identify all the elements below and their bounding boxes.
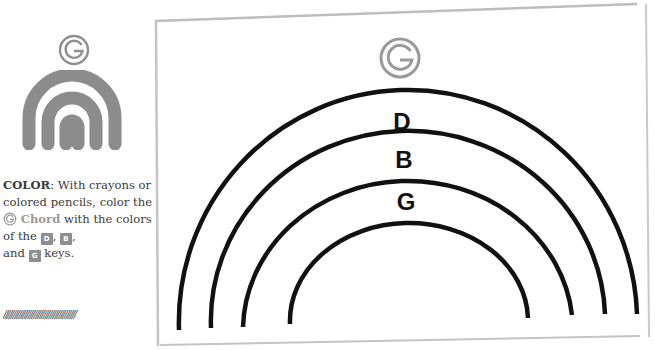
instructions-text: keys. (41, 246, 75, 260)
key-badge-d: D (41, 233, 53, 245)
hatch-divider: ////////////////////////////////////// (3, 308, 160, 320)
band-label-d: D (393, 108, 410, 136)
key-badge-g: G (29, 250, 41, 262)
separator: , (53, 229, 60, 243)
g-chord-icon (57, 33, 91, 67)
chord-name: Chord (21, 212, 61, 226)
g-chord-large-icon (381, 39, 419, 77)
mini-rainbow-icon (20, 70, 125, 150)
separator: , (72, 229, 76, 243)
band-label-b: B (395, 146, 412, 174)
coloring-instructions: COLOR: With crayons or colored pencils, … (3, 177, 163, 262)
g-chord-inline-icon (3, 212, 17, 226)
arc-inner (290, 223, 528, 324)
band-label-g: G (397, 188, 416, 216)
instructions-text: and (3, 246, 29, 260)
left-panel: COLOR: With crayons or colored pencils, … (0, 0, 160, 350)
key-badge-b: B (60, 233, 72, 245)
instructions-heading: COLOR (3, 178, 50, 192)
